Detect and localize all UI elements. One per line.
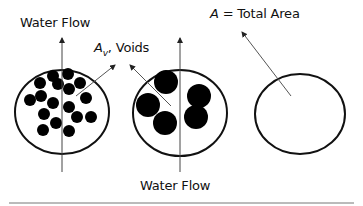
panel-total-area [242,32,345,154]
large-particles [136,70,211,135]
voids-symbol: A [94,40,103,55]
total-area-label: A = Total Area [210,6,300,21]
voids-text: , Voids [108,40,149,55]
total-area-text: = Total Area [219,6,300,21]
diagram-canvas [0,0,363,206]
cross-section-outline-3 [255,74,345,154]
panel-fine-particles [15,38,115,172]
water-flow-top-label: Water Flow [20,15,90,30]
voids-label: Av, Voids [94,40,149,58]
total-area-symbol: A [210,6,219,21]
water-flow-bottom-label: Water Flow [140,178,210,193]
panel-coarse-particles [130,38,227,172]
